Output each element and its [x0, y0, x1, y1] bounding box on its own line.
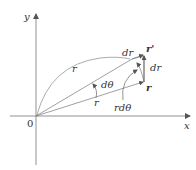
x-axis-label: x: [184, 121, 190, 131]
arc-dtheta: [93, 84, 97, 98]
arc-r-dtheta-path: [137, 63, 144, 82]
r-dtheta-label: rdθ: [114, 103, 131, 113]
dtheta-label: dθ: [101, 80, 113, 90]
r-prime-label: r': [146, 44, 154, 54]
diagram-graphics: [0, 0, 196, 170]
polar-displacement-diagram: y x 0 r r dθ dr r' dr r rdθ: [0, 0, 196, 170]
rdtheta-pointer: [123, 70, 137, 100]
dr-vector-label: dr: [150, 63, 161, 73]
vector-r-prime-tip: [132, 55, 143, 59]
y-axis-label: y: [24, 12, 30, 22]
dr-scalar-label: dr: [122, 48, 133, 58]
r-arc-label: r: [72, 64, 77, 74]
r-vector-label: r: [146, 83, 151, 93]
r-inner-label: r: [94, 98, 99, 108]
origin-label: 0: [27, 119, 33, 129]
